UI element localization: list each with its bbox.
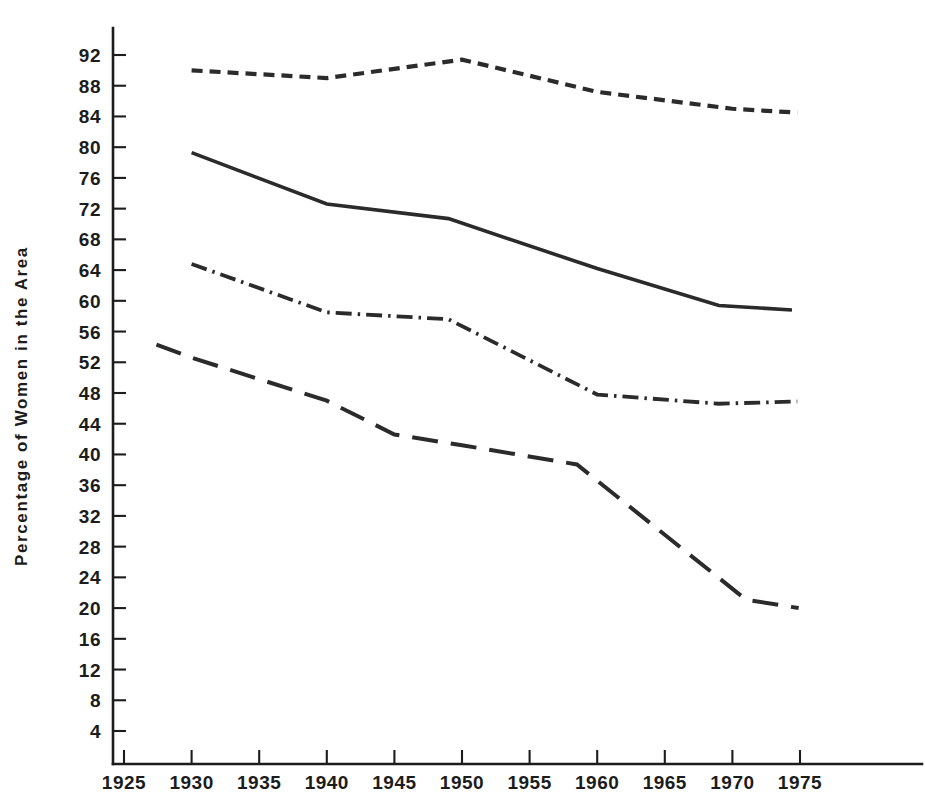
chart-series-lines [156, 60, 798, 608]
y-tick-label: 20 [79, 598, 101, 619]
y-tick-label: 64 [79, 260, 101, 281]
y-tick-label: 60 [79, 291, 101, 312]
y-tick-label: 48 [79, 383, 101, 404]
chart-axes [113, 28, 922, 764]
y-tick-label: 88 [79, 76, 101, 97]
x-tick-label: 1960 [575, 772, 619, 793]
y-tick-label: 32 [79, 506, 101, 527]
chart-container: 4812162024283236404448525660646872768084… [0, 0, 925, 812]
y-tick-label: 44 [79, 414, 101, 435]
y-tick-label: 92 [79, 45, 101, 66]
x-tick-label: 1975 [778, 772, 822, 793]
y-tick-label: 84 [79, 106, 101, 127]
series-3-dash-dot [192, 264, 798, 404]
x-tick-label: 1955 [507, 772, 551, 793]
y-tick-label: 12 [79, 660, 101, 681]
series-2-solid [192, 153, 792, 310]
x-tick-label: 1925 [102, 772, 146, 793]
y-tick-label: 8 [90, 690, 101, 711]
x-tick-label: 1945 [372, 772, 416, 793]
y-axis-tick-labels: 4812162024283236404448525660646872768084… [79, 45, 101, 742]
y-tick-label: 28 [79, 537, 101, 558]
y-tick-label: 76 [79, 168, 101, 189]
x-axis-tick-labels: 1925193019351940194519501955196019651970… [102, 772, 822, 793]
series-1-short-dashed [192, 60, 798, 113]
x-tick-label: 1930 [169, 772, 213, 793]
y-tick-label: 56 [79, 322, 101, 343]
y-tick-label: 4 [90, 721, 101, 742]
y-tick-label: 72 [79, 199, 101, 220]
y-tick-label: 36 [79, 475, 101, 496]
x-tick-label: 1935 [237, 772, 281, 793]
y-tick-label: 52 [79, 352, 101, 373]
x-tick-label: 1970 [710, 772, 754, 793]
x-tick-label: 1940 [305, 772, 349, 793]
x-tick-label: 1965 [643, 772, 687, 793]
x-tick-label: 1950 [440, 772, 484, 793]
y-tick-label: 80 [79, 137, 101, 158]
line-chart-plot: 4812162024283236404448525660646872768084… [0, 0, 925, 812]
y-tick-label: 68 [79, 229, 101, 250]
y-tick-label: 40 [79, 444, 101, 465]
y-tick-label: 16 [79, 629, 101, 650]
y-tick-label: 24 [79, 567, 101, 588]
series-4-long-dashed [156, 345, 798, 608]
series-2-solid-tail [448, 219, 791, 310]
